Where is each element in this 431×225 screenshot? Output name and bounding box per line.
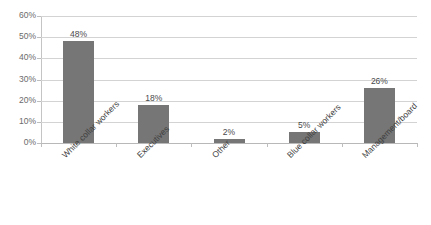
x-axis-tick-mark [417,143,418,147]
y-axis-tick-mark [37,101,41,102]
y-axis-tick-mark [37,37,41,38]
x-axis-category-labels: White collar workersExecutivesOtherBlue … [0,0,431,225]
x-axis-tick-mark [342,143,343,147]
x-axis-category-label: Executives [135,124,171,160]
y-axis-tick-mark [37,16,41,17]
x-axis-category-label: White collar workers [60,99,121,160]
bar-chart: 0%10%20%30%40%50%60% 48%18%2%5%26% White… [0,0,431,225]
x-axis-category-label: Other [210,138,232,160]
y-axis-tick-mark [37,80,41,81]
y-axis-tick-mark [37,122,41,123]
y-axis-tick-mark [37,58,41,59]
x-axis-category-label: Blue collar workers [285,102,343,160]
x-axis-category-label: Management/board [360,101,419,160]
x-axis-tick-mark [116,143,117,147]
x-axis-tick-mark [191,143,192,147]
x-axis-tick-mark [267,143,268,147]
x-axis-tick-mark [41,143,42,147]
